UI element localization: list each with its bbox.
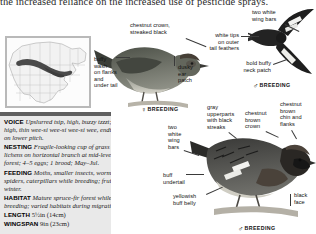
male-symbol-icon-lower: ♂ <box>238 225 244 232</box>
breeding-tag-male-upper: ♂BREEDING <box>253 82 290 89</box>
label-buff-undertail: buff undertail <box>163 172 185 185</box>
breeding-label-female-upper: BREEDING <box>148 106 179 112</box>
label-white-tail-tips: white tips on outer tail feathers <box>203 32 239 52</box>
field-guide-page: the increased reliance on the increased … <box>0 0 316 234</box>
info-key-length: LENGTH <box>4 211 30 218</box>
panel-accent-bar <box>0 112 111 116</box>
label-chestnut-chin-flanks: chestnut brown chin and flanks <box>280 101 302 127</box>
range-map <box>5 36 91 108</box>
info-text-wingspan: 9in (23cm) <box>40 220 69 227</box>
species-info-panel: VOICE Upslurred tsip, high, buzzy tzzzt;… <box>0 112 111 234</box>
label-yellowish-buff-belly: yellowish buff belly <box>173 193 196 206</box>
label-bold-buffy-neck-patch: bold buffy neck patch <box>227 60 271 73</box>
breeding-label-male-upper: BREEDING <box>260 82 291 88</box>
label-two-white-wing-bars-top: two white wing bars <box>252 9 276 22</box>
info-key-habitat: HABITAT <box>4 194 31 201</box>
male-symbol-icon: ♂ <box>253 82 259 89</box>
leader-buffy-wash <box>116 57 130 58</box>
breeding-tag-female-upper: ♀BREEDING <box>141 106 178 113</box>
leader-buff-undertail <box>186 174 204 175</box>
running-text: the increased reliance on the increased … <box>0 0 316 8</box>
info-key-voice: VOICE <box>4 118 24 125</box>
label-chestnut-crown: chestnut crown, streaked black <box>130 22 170 35</box>
female-symbol-icon: ♀ <box>141 106 147 113</box>
info-entries: VOICE Upslurred tsip, high, buzzy tzzzt;… <box>4 118 111 229</box>
info-text-length: 5½in (14cm) <box>32 211 66 218</box>
info-key-nesting: NESTING <box>4 143 32 150</box>
label-chestnut-brown-crown: chestnut brown crown <box>245 110 267 130</box>
label-gray-upperparts: gray upperparts with black streaks <box>207 104 234 130</box>
label-buffy-wash: buffy wash on flanks and under tail <box>94 56 118 89</box>
breeding-tag-male-lower: ♂BREEDING <box>238 225 275 232</box>
label-dusky-ear-patch: dusky ear patch <box>178 64 193 84</box>
info-key-wingspan: WINGSPAN <box>4 220 38 227</box>
label-two-white-wing-bars-bottom: two white wing bars <box>168 124 181 150</box>
label-black-face: black face <box>294 192 307 205</box>
leader-black-face <box>290 194 291 206</box>
leader-dusky-ear-patch <box>174 56 175 66</box>
leader-white-tail-tips <box>241 36 259 37</box>
breeding-label-male-lower: BREEDING <box>245 225 276 231</box>
bird-photo-male-perched <box>190 125 316 225</box>
info-key-feeding: FEEDING <box>4 169 32 176</box>
